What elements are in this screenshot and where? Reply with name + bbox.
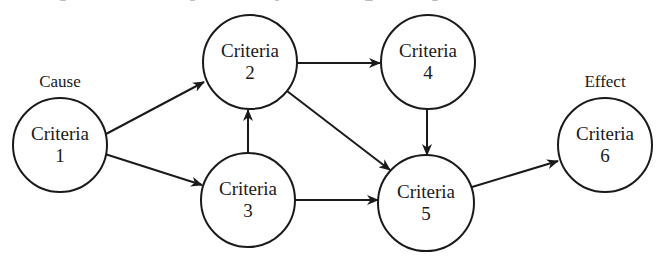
node-3-title: Criteria bbox=[219, 178, 277, 199]
node-1: Criteria 1 bbox=[15, 123, 105, 167]
effect-label: Effect bbox=[565, 72, 645, 92]
node-3-number: 3 bbox=[203, 200, 293, 222]
edge-5-to-6 bbox=[472, 161, 558, 187]
edge-2-to-5 bbox=[287, 91, 390, 170]
node-6-title: Criteria bbox=[576, 123, 634, 144]
diagram-canvas: Cause Effect Criteria 1 Criteria 2 Crite… bbox=[0, 0, 660, 266]
node-5-title: Criteria bbox=[397, 181, 455, 202]
node-4-number: 4 bbox=[383, 62, 473, 84]
node-6-number: 6 bbox=[560, 145, 650, 167]
cause-label: Cause bbox=[20, 72, 100, 92]
node-1-title: Criteria bbox=[31, 123, 89, 144]
node-2-number: 2 bbox=[205, 62, 295, 84]
node-3: Criteria 3 bbox=[203, 178, 293, 222]
node-1-number: 1 bbox=[15, 145, 105, 167]
edge-1-to-2 bbox=[106, 82, 204, 134]
node-4: Criteria 4 bbox=[383, 40, 473, 84]
node-2-title: Criteria bbox=[221, 40, 279, 61]
node-4-title: Criteria bbox=[399, 40, 457, 61]
edge-1-to-3 bbox=[105, 154, 202, 185]
node-5-number: 5 bbox=[381, 203, 471, 225]
node-2: Criteria 2 bbox=[205, 40, 295, 84]
node-6: Criteria 6 bbox=[560, 123, 650, 167]
node-5: Criteria 5 bbox=[381, 181, 471, 225]
